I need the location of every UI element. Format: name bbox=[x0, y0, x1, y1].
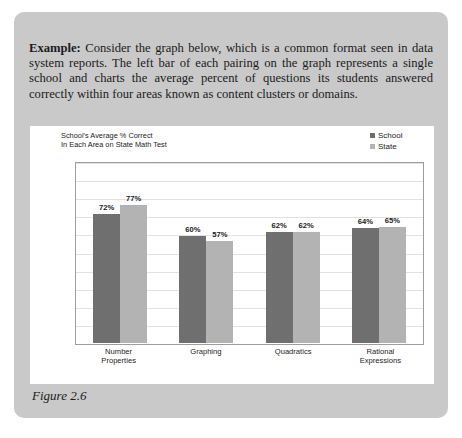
x-axis-labels: Number Properties Graphing Quadratics Ra… bbox=[75, 347, 424, 365]
bar-state-graphing[interactable]: 57% bbox=[206, 241, 233, 343]
bars-layer: 72% 77% 60% 57% bbox=[77, 164, 422, 343]
legend-label-school: School bbox=[378, 131, 402, 140]
chart-header: School's Average % Correct In Each Area … bbox=[30, 126, 434, 160]
plot-wrap: 72% 77% 60% 57% bbox=[75, 162, 424, 345]
bar-school-rational-expressions[interactable]: 64% bbox=[352, 228, 379, 343]
bar-value-state-quadratics: 62% bbox=[293, 221, 320, 230]
chart-title: School's Average % Correct In Each Area … bbox=[61, 131, 167, 150]
bar-school-number-properties[interactable]: 72% bbox=[93, 214, 120, 343]
example-body-text: Consider the graph below, which is a com… bbox=[29, 41, 433, 101]
x-axis-label-rational-expressions: Rational Expressions bbox=[350, 347, 410, 365]
bar-state-rational-expressions[interactable]: 65% bbox=[379, 227, 406, 343]
figure-caption: Figure 2.6 bbox=[32, 388, 86, 404]
legend-swatch-state-icon bbox=[370, 144, 375, 149]
bar-group-graphing: 60% 57% bbox=[179, 164, 233, 343]
bar-value-state-graphing: 57% bbox=[206, 230, 233, 239]
bar-state-number-properties[interactable]: 77% bbox=[120, 205, 147, 343]
bar-value-state-rational-expressions: 65% bbox=[379, 216, 406, 225]
legend-swatch-school-icon bbox=[370, 133, 375, 138]
bar-value-school-quadratics: 62% bbox=[266, 221, 293, 230]
legend-item-state: State bbox=[370, 141, 430, 152]
legend-item-school: School bbox=[370, 130, 430, 141]
x-axis-label-graphing: Graphing bbox=[176, 347, 236, 365]
example-label: Example: bbox=[29, 41, 81, 55]
bar-value-school-number-properties: 72% bbox=[93, 203, 120, 212]
bar-value-school-rational-expressions: 64% bbox=[352, 217, 379, 226]
bar-group-number-properties: 72% 77% bbox=[93, 164, 147, 343]
bar-group-rational-expressions: 64% 65% bbox=[352, 164, 406, 343]
example-card: Example: Consider the graph below, which… bbox=[14, 12, 448, 418]
bar-school-quadratics[interactable]: 62% bbox=[266, 232, 293, 343]
x-axis-label-number-properties: Number Properties bbox=[89, 347, 149, 365]
x-axis-label-quadratics: Quadratics bbox=[263, 347, 323, 365]
chart-legend: School State bbox=[370, 130, 430, 152]
bar-value-state-number-properties: 77% bbox=[120, 194, 147, 203]
legend-label-state: State bbox=[378, 142, 397, 151]
bar-school-graphing[interactable]: 60% bbox=[179, 236, 206, 343]
bar-group-quadratics: 62% 62% bbox=[266, 164, 320, 343]
chart-panel: School's Average % Correct In Each Area … bbox=[30, 126, 434, 384]
example-paragraph: Example: Consider the graph below, which… bbox=[29, 41, 433, 103]
bar-state-quadratics[interactable]: 62% bbox=[293, 232, 320, 343]
plot-area: 72% 77% 60% 57% bbox=[75, 162, 424, 345]
bar-value-school-graphing: 60% bbox=[179, 225, 206, 234]
